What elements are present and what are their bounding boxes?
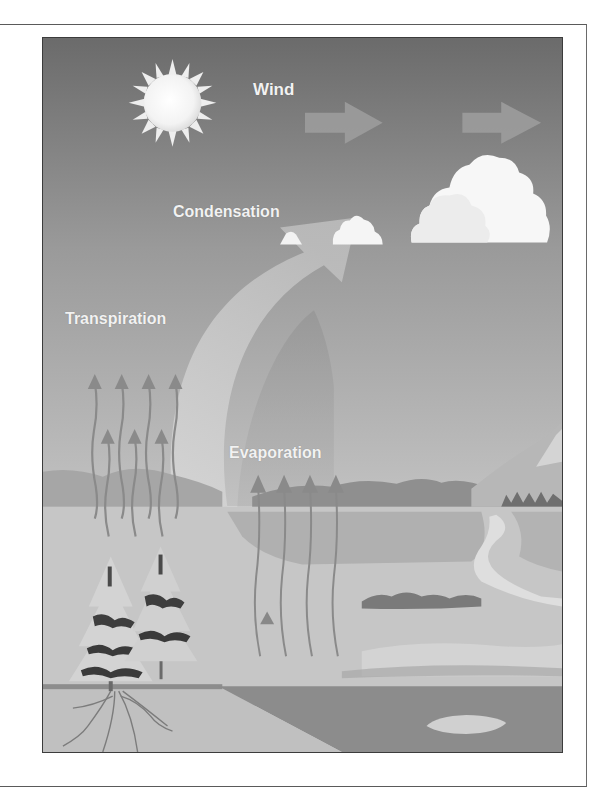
water-cycle-illustration: Wind Condensation Transpiration Evaporat… — [42, 37, 563, 753]
sun-icon — [129, 59, 217, 147]
condensation-label: Condensation — [173, 203, 280, 221]
soil-top-edge — [43, 684, 222, 689]
wind-label: Wind — [253, 80, 294, 100]
illustration-canvas — [43, 38, 562, 752]
transpiration-label: Transpiration — [65, 310, 166, 328]
evaporation-label: Evaporation — [229, 444, 321, 462]
